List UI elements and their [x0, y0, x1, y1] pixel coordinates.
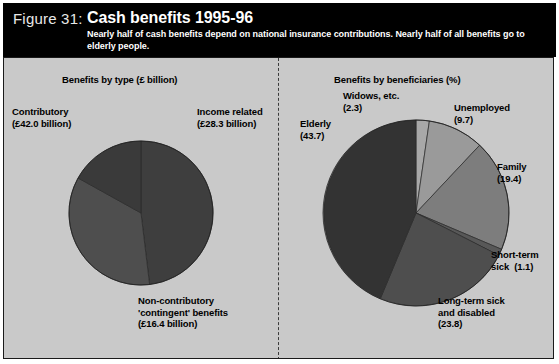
label-contributory: Contributory (£42.0 billion)	[12, 106, 71, 129]
label-widows: Widows, etc. (2.3)	[343, 90, 399, 113]
figure-header: Figure 31: Cash benefits 1995-96 Nearly …	[3, 3, 556, 57]
figure-subtitle: Nearly half of cash benefits depend on n…	[87, 29, 542, 52]
figure-title: Cash benefits 1995-96	[87, 9, 253, 27]
label-non-contributory: Non-contributory 'contingent' benefits (…	[138, 295, 228, 330]
label-short-term-sick: Short-term sick (1.1)	[491, 249, 539, 272]
slice-contributory[interactable]	[141, 141, 213, 285]
label-elderly: Elderly (43.7)	[300, 118, 331, 141]
chart-plot-area: Benefits by type (£ billion) Benefits by…	[3, 57, 554, 359]
figure-number: Figure 31:	[13, 10, 83, 27]
label-income-related: Income related (£28.3 billion)	[197, 106, 263, 129]
label-unemployed: Unemployed (9.7)	[454, 102, 510, 125]
left-pie	[69, 141, 213, 285]
right-pie	[323, 120, 509, 306]
label-family: Family (19.4)	[497, 161, 527, 184]
figure-container: Figure 31: Cash benefits 1995-96 Nearly …	[0, 0, 559, 364]
label-long-term-sick-disabled: Long-term sick and disabled (23.8)	[438, 295, 505, 330]
